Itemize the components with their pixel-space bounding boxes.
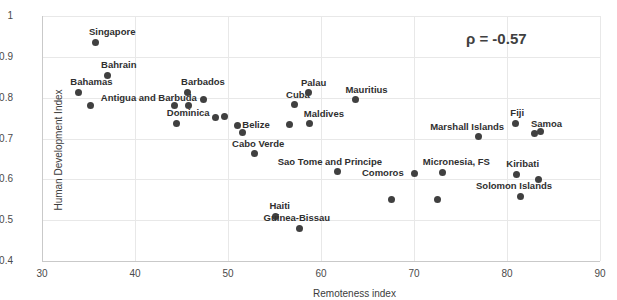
- x-axis-line: [42, 261, 600, 262]
- data-point[interactable]: [212, 114, 219, 121]
- data-point-label: Solomon Islands: [476, 181, 552, 191]
- data-point-label: Kiribati: [506, 159, 539, 169]
- data-point-label: Marshall Islands: [430, 122, 504, 132]
- x-tick-label: 80: [487, 269, 527, 279]
- data-point[interactable]: [92, 39, 99, 46]
- x-tick-label: 40: [115, 269, 155, 279]
- x-tick-label: 30: [22, 269, 62, 279]
- x-gridline: [600, 16, 601, 261]
- data-point-label: Cabo Verde: [232, 139, 284, 149]
- data-point[interactable]: [388, 196, 395, 203]
- y-axis-title: Human Development Index: [53, 89, 64, 210]
- x-axis-title-text: Remoteness index: [313, 288, 396, 299]
- data-point[interactable]: [411, 170, 418, 177]
- data-point[interactable]: [305, 89, 312, 96]
- y-tick-label: 0.8: [0, 93, 13, 103]
- x-tick-label: 90: [580, 269, 617, 279]
- y-tick-label: 1: [0, 11, 13, 21]
- data-point[interactable]: [87, 102, 94, 109]
- data-point[interactable]: [173, 120, 180, 127]
- data-point-label: Dominica: [167, 108, 210, 118]
- plot-area: SingaporeBahrainBahamasBarbadosAntigua a…: [42, 16, 600, 261]
- correlation-annotation: ρ = -0.57: [466, 30, 527, 47]
- data-point-label: Guinea-Bissau: [264, 213, 331, 223]
- y-tick-label: 0.4: [0, 256, 13, 266]
- data-point[interactable]: [239, 129, 246, 136]
- data-point[interactable]: [512, 120, 519, 127]
- data-point-label: Belize: [242, 120, 269, 130]
- y-gridline: [42, 16, 600, 17]
- data-point-label: Barbados: [181, 77, 225, 87]
- data-point[interactable]: [475, 133, 482, 140]
- x-tick-label: 60: [301, 269, 341, 279]
- data-point-label: Mauritius: [345, 85, 387, 95]
- y-tick-label: 0.5: [0, 215, 13, 225]
- data-point[interactable]: [517, 193, 524, 200]
- data-point[interactable]: [296, 225, 303, 232]
- data-point[interactable]: [439, 169, 446, 176]
- data-point[interactable]: [513, 171, 520, 178]
- y-tick-label: 0.7: [0, 134, 13, 144]
- data-point-label: Bahrain: [101, 60, 136, 70]
- scatter-chart: SingaporeBahrainBahamasBarbadosAntigua a…: [0, 0, 617, 300]
- data-point[interactable]: [200, 96, 207, 103]
- data-point-label: Comoros: [362, 168, 404, 178]
- data-point-label: Samoa: [531, 119, 562, 129]
- data-point[interactable]: [251, 150, 258, 157]
- data-point[interactable]: [291, 101, 298, 108]
- data-point[interactable]: [352, 96, 359, 103]
- data-point[interactable]: [537, 128, 544, 135]
- y-axis-line: [42, 16, 43, 261]
- x-tick-label: 50: [208, 269, 248, 279]
- data-point-label: Sao Tome and Principe: [278, 157, 382, 167]
- data-point[interactable]: [306, 120, 313, 127]
- data-point-label: Singapore: [89, 27, 135, 37]
- x-tick-label: 70: [394, 269, 434, 279]
- data-point-label: Micronesia, FS: [423, 157, 490, 167]
- data-point[interactable]: [286, 121, 293, 128]
- x-axis-title: Remoteness index: [0, 288, 617, 299]
- data-point-label: Antigua and Barbuda: [101, 93, 197, 103]
- y-tick-label: 0.6: [0, 174, 13, 184]
- data-point[interactable]: [334, 168, 341, 175]
- data-point[interactable]: [221, 113, 228, 120]
- data-point-label: Bahamas: [70, 77, 112, 87]
- data-point-label: Haiti: [269, 201, 290, 211]
- data-point-label: Maldives: [304, 109, 344, 119]
- data-point-label: Palau: [301, 78, 326, 88]
- y-tick-label: 0.9: [0, 52, 13, 62]
- data-point[interactable]: [234, 122, 241, 129]
- data-point[interactable]: [75, 89, 82, 96]
- y-gridline: [42, 57, 600, 58]
- y-gridline: [42, 139, 600, 140]
- data-point-label: Fiji: [510, 108, 524, 118]
- data-point[interactable]: [434, 196, 441, 203]
